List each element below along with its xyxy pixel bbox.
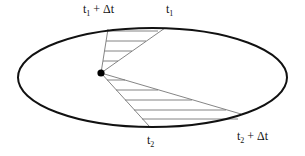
- orbit-ellipse: [18, 28, 287, 127]
- upper-sector: [101, 28, 165, 73]
- label-t1-plus-dt: t1 + Δt: [83, 2, 114, 18]
- lower-sector: [101, 73, 241, 126]
- focus-sun-dot: [97, 69, 104, 76]
- label-t2-plus-dt: t2 + Δt: [237, 129, 268, 145]
- label-t1: t1: [166, 2, 173, 18]
- label-t2: t2: [147, 133, 154, 149]
